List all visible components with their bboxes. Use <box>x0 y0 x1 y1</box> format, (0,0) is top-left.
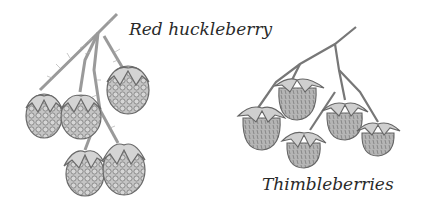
thimbleberry-berry <box>275 79 324 120</box>
huckleberry-berry <box>26 94 62 138</box>
red-huckleberry-label: Red huckleberry <box>129 19 272 39</box>
huckleberry-berry <box>107 66 149 114</box>
huckleberry-berry <box>103 144 145 195</box>
thimbleberry-berry <box>282 132 326 168</box>
thimbleberry-berry <box>357 123 400 156</box>
thimbleberry-berry <box>238 107 285 150</box>
huckleberry-berry <box>64 151 104 196</box>
thimbleberries-label: Thimbleberries <box>262 174 394 194</box>
thimbleberry-berry <box>322 103 368 140</box>
huckleberry-berry <box>61 95 101 139</box>
thimbleberry-sprig <box>238 27 400 168</box>
berry-illustration: Red huckleberry Thimbleberries <box>0 0 421 203</box>
red-huckleberry-sprig <box>26 14 149 196</box>
